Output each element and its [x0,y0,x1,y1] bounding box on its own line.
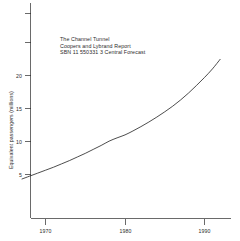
y-tick-label-15: 15 [16,106,22,112]
annotation-block: The Channel Tunnel Coopers and Lybrand R… [60,36,146,55]
y-tick-label-20: 20 [16,73,22,79]
annotation-line-1: The Channel Tunnel [60,36,110,42]
y-tick-label-10: 10 [16,139,22,145]
x-tick-group [46,219,205,225]
line-chart: 5 10 15 20 1970 1980 1990 Equivalent pas… [0,0,240,241]
y-tick-group [25,14,31,175]
chart-container: 5 10 15 20 1970 1980 1990 Equivalent pas… [0,0,240,241]
annotation-line-2: Coopers and Lybrand Report [60,43,131,49]
y-tick-label-5: 5 [19,172,22,178]
x-tick-label-1980: 1980 [119,228,131,234]
x-tick-label-1970: 1970 [39,228,51,234]
forecast-curve [22,59,221,179]
x-tick-label-1990: 1990 [198,228,210,234]
annotation-line-3: SBN 11 550331 3 Central Forecast [60,49,146,55]
y-axis-title: Equivalent passengers (millions) [8,91,14,169]
